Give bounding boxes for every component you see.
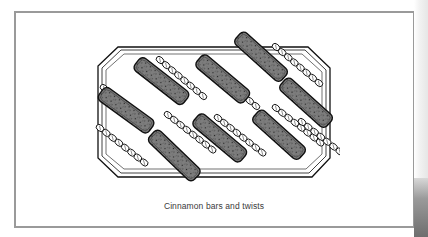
cinnamon-tray-illustration	[90, 26, 340, 196]
page: Cinnamon bars and twists	[0, 0, 428, 237]
figure-caption: Cinnamon bars and twists	[0, 201, 428, 211]
page-curl-shadow	[414, 178, 428, 237]
